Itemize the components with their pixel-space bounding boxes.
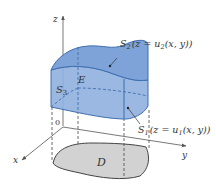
region-d-label: D	[96, 156, 106, 169]
solid-e-label: E	[77, 74, 86, 85]
x-axis-label: x	[13, 155, 18, 165]
z-axis-label: z	[52, 14, 58, 24]
origin-label: 0	[55, 118, 60, 127]
triple-integral-region-diagram: z x y 0 E D S3 S2(z = u2(x, y)) S1(z = u…	[0, 0, 216, 188]
y-axis-label: y	[181, 150, 188, 160]
